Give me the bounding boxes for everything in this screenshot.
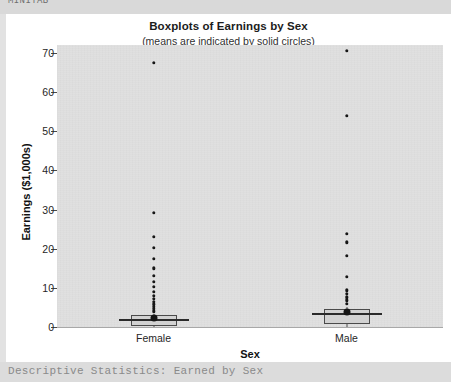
x-axis-label: Sex	[57, 348, 443, 360]
outlier-point	[345, 49, 348, 52]
mean-marker	[150, 314, 157, 321]
outlier-point	[152, 280, 155, 283]
y-axis-label: Earnings ($1,000s)	[20, 92, 32, 292]
clipped-footer-text: Descriptive Statistics: Earned by Sex	[8, 365, 263, 377]
outlier-point	[152, 61, 155, 64]
y-tick-label: 50	[42, 125, 54, 137]
x-axis-line	[57, 327, 443, 328]
outlier-point	[345, 254, 348, 257]
clipped-header-text: MINITAB	[8, 0, 49, 6]
outlier-point	[152, 235, 155, 238]
outlier-point	[152, 267, 155, 270]
x-tick-label-female: Female	[136, 332, 171, 344]
outlier-point	[152, 274, 155, 277]
outlier-point	[345, 299, 348, 302]
y-tick-label: 20	[42, 243, 54, 255]
outlier-point	[152, 211, 155, 214]
y-tick-label: 40	[42, 164, 54, 176]
outlier-point	[152, 294, 155, 297]
x-tick-label-male: Male	[335, 332, 358, 344]
paper-texture	[57, 45, 443, 327]
page-top-margin: MINITAB	[0, 0, 451, 14]
outlier-point	[345, 241, 348, 244]
outlier-point	[345, 114, 348, 117]
outlier-point	[345, 288, 348, 291]
y-tick-label: 10	[42, 282, 54, 294]
boxplot-figure: Boxplots of Earnings by Sex (means are i…	[6, 14, 451, 362]
outlier-point	[152, 246, 155, 249]
outlier-point	[345, 275, 348, 278]
outlier-point	[345, 292, 348, 295]
outlier-point	[152, 257, 155, 260]
outlier-point	[152, 285, 155, 288]
chart-title: Boxplots of Earnings by Sex	[6, 20, 451, 32]
y-tick-label: 60	[42, 86, 54, 98]
page-bottom-margin: Descriptive Statistics: Earned by Sex	[0, 362, 451, 382]
outlier-point	[345, 296, 348, 299]
outlier-point	[345, 302, 348, 305]
mean-marker	[343, 309, 350, 316]
outlier-point	[152, 290, 155, 293]
y-tick-label: 0	[48, 321, 54, 333]
outlier-point	[345, 232, 348, 235]
plot-area	[57, 45, 443, 327]
y-tick-label: 30	[42, 204, 54, 216]
y-tick-label: 70	[42, 47, 54, 59]
scanned-page: MINITAB Boxplots of Earnings by Sex (mea…	[0, 0, 451, 382]
